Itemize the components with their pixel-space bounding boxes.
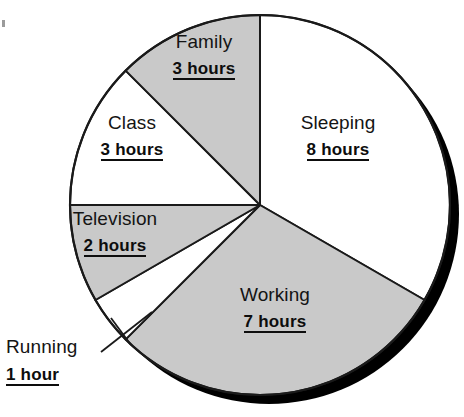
- pie-chart-figure: Sleeping 8 hours Working 7 hours Running…: [0, 0, 464, 417]
- slice-value-running: 1 hour: [6, 366, 59, 386]
- slice-label-sleeping: Sleeping 8 hours: [283, 113, 393, 161]
- slice-label-working: Working 7 hours: [216, 285, 334, 333]
- slice-name-television: Television: [55, 209, 175, 228]
- slice-value-class: 3 hours: [101, 141, 164, 161]
- slice-name-class: Class: [82, 113, 182, 132]
- slice-name-running: Running: [6, 337, 98, 356]
- pie-slice-group: [70, 15, 450, 395]
- slice-name-sleeping: Sleeping: [283, 113, 393, 132]
- slice-label-television: Television 2 hours: [55, 209, 175, 257]
- slice-name-working: Working: [216, 285, 334, 304]
- slice-value-sleeping: 8 hours: [307, 141, 370, 161]
- slice-label-running: Running 1 hour: [6, 337, 98, 386]
- slice-value-working: 7 hours: [244, 313, 307, 333]
- slice-label-class: Class 3 hours: [82, 113, 182, 161]
- slice-value-television: 2 hours: [84, 237, 147, 257]
- slice-name-family: Family: [152, 32, 256, 51]
- slice-value-family: 3 hours: [173, 60, 236, 80]
- slice-label-family: Family 3 hours: [152, 32, 256, 80]
